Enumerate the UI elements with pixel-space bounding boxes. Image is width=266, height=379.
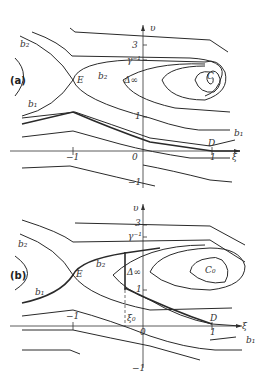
xi0-label: ξ₀ bbox=[127, 314, 136, 323]
branch-b1-left: b₁ bbox=[28, 100, 37, 109]
panel-tag-a: (a) bbox=[10, 75, 26, 86]
branch-b1-right: b₁ bbox=[246, 336, 255, 345]
branch-b2-mid: b₂ bbox=[96, 260, 105, 269]
tick-neg1-x: −1 bbox=[66, 312, 79, 321]
phase-portrait-b: (b) υ ξ 3 γ⁻¹ 1 0 −1 1 −1 E D C₀ Δ∞ ξ₀ b… bbox=[0, 190, 266, 379]
tick-0: 0 bbox=[132, 153, 138, 162]
tick-1-upper: 1 bbox=[135, 112, 141, 121]
phase-portrait-b-curves bbox=[0, 190, 266, 379]
tick-neg1-x: −1 bbox=[66, 153, 79, 162]
tick-neg1-y: −1 bbox=[132, 364, 145, 373]
tick-gamma: γ⁻¹ bbox=[127, 56, 141, 65]
tick-3: 3 bbox=[132, 41, 138, 50]
branch-b2-left: b₂ bbox=[20, 40, 29, 49]
tick-1-upper: 1 bbox=[136, 285, 142, 294]
tick-gamma: γ⁻¹ bbox=[128, 232, 142, 241]
branch-b2-left: b₂ bbox=[18, 240, 27, 249]
point-C: C bbox=[207, 72, 214, 81]
branch-b1-left: b₁ bbox=[35, 288, 44, 297]
delta-inf: Δ∞ bbox=[127, 268, 141, 277]
point-C0: C₀ bbox=[205, 266, 216, 275]
tick-0: 0 bbox=[140, 328, 146, 337]
point-D: D bbox=[210, 314, 217, 323]
point-D: D bbox=[208, 139, 215, 148]
v-axis-label: υ bbox=[133, 204, 138, 213]
tick-neg1-y: −1 bbox=[128, 178, 141, 187]
xi-axis-label: ξ bbox=[232, 153, 237, 162]
phase-portrait-a: (a) υ ξ 3 γ⁻¹ 1 0 −1 1 −1 E D C Δ∞ b₂ b₂… bbox=[0, 0, 266, 190]
tick-1-x: 1 bbox=[210, 153, 216, 162]
branch-b2-mid: b₂ bbox=[98, 72, 107, 81]
delta-inf: Δ∞ bbox=[124, 76, 138, 85]
point-E: E bbox=[76, 270, 83, 279]
tick-3: 3 bbox=[135, 219, 141, 228]
tick-1-x: 1 bbox=[210, 328, 216, 337]
xi-axis-label: ξ bbox=[242, 322, 247, 331]
branch-b1-right: b₁ bbox=[234, 129, 243, 138]
point-E: E bbox=[77, 76, 84, 85]
panel-tag-b: (b) bbox=[10, 270, 26, 281]
v-axis-label: υ bbox=[150, 24, 155, 33]
